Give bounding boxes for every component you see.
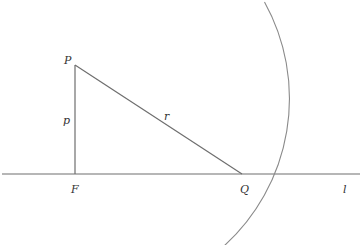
circle-arc [224, 2, 289, 245]
segment-label-p: p [63, 114, 70, 127]
segment-pq [75, 65, 242, 174]
point-label-q: Q [240, 183, 249, 196]
segment-label-r: r [164, 110, 170, 123]
point-label-p: P [63, 54, 72, 67]
line-label-l: l [343, 183, 347, 196]
geometry-diagram: P p r F Q l [0, 0, 362, 245]
point-label-f: F [70, 183, 79, 196]
